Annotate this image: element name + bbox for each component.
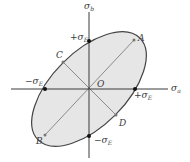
pos-sigma-e-y-label: +σE: [70, 32, 89, 43]
sigma-b-label: σb: [84, 1, 94, 12]
point-D-marker: [115, 114, 118, 117]
neg-sigma-e-y-point: [87, 134, 91, 138]
neg-sigma-e-y-label: −σE: [94, 135, 113, 146]
point-A-label: A: [137, 33, 145, 43]
pos-sigma-e-x-label: +σE: [134, 90, 153, 101]
point-D-label: D: [118, 118, 126, 128]
point-A-marker: [133, 39, 136, 42]
point-B-marker: [44, 134, 47, 137]
point-C-label: C: [56, 50, 63, 60]
point-B-label: B: [35, 136, 43, 146]
neg-sigma-e-x-point: [43, 87, 47, 91]
yield-ellipse-diagram: σb σa O +σE −σE +σE −σE A B C D: [0, 0, 190, 162]
origin-label: O: [97, 79, 105, 89]
neg-sigma-e-x-label: −σE: [25, 76, 44, 87]
sigma-a-label: σa: [171, 83, 181, 94]
point-C-marker: [62, 61, 65, 64]
